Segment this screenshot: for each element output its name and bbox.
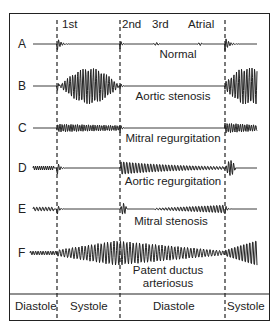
- row-letter-c: C: [18, 122, 27, 135]
- second-sound-label: 2nd: [122, 18, 141, 31]
- caption-aortic-stenosis: Aortic stenosis: [136, 90, 211, 103]
- caption-aortic-regurgitation: Aortic regurgitation: [125, 175, 222, 188]
- phase-label-diastole-2: Diastole: [153, 300, 195, 313]
- phonocardiogram-diagram: [0, 0, 279, 330]
- heart-sound-waveforms: [30, 39, 257, 265]
- row-letter-a: A: [18, 38, 26, 51]
- caption-normal: Normal: [159, 48, 196, 61]
- row-letter-d: D: [18, 162, 27, 175]
- phase-label-diastole-1: Diastole: [15, 300, 57, 313]
- row-letter-f: F: [18, 247, 25, 260]
- row-letter-b: B: [18, 80, 26, 93]
- caption-mitral-regurgitation: Mitral regurgitation: [125, 132, 220, 145]
- caption-arteriosus: arteriosus: [143, 277, 194, 290]
- phase-label-systole-2: Systole: [227, 300, 265, 313]
- caption-mitral-stenosis: Mitral stenosis: [134, 215, 208, 228]
- first-sound-label: 1st: [62, 18, 77, 31]
- phase-label-systole-1: Systole: [70, 300, 108, 313]
- atrial-sound-label: Atrial: [188, 18, 214, 31]
- row-letter-e: E: [18, 203, 26, 216]
- caption-patent-ductus: Patent ductus: [133, 264, 203, 277]
- third-sound-label: 3rd: [152, 18, 169, 31]
